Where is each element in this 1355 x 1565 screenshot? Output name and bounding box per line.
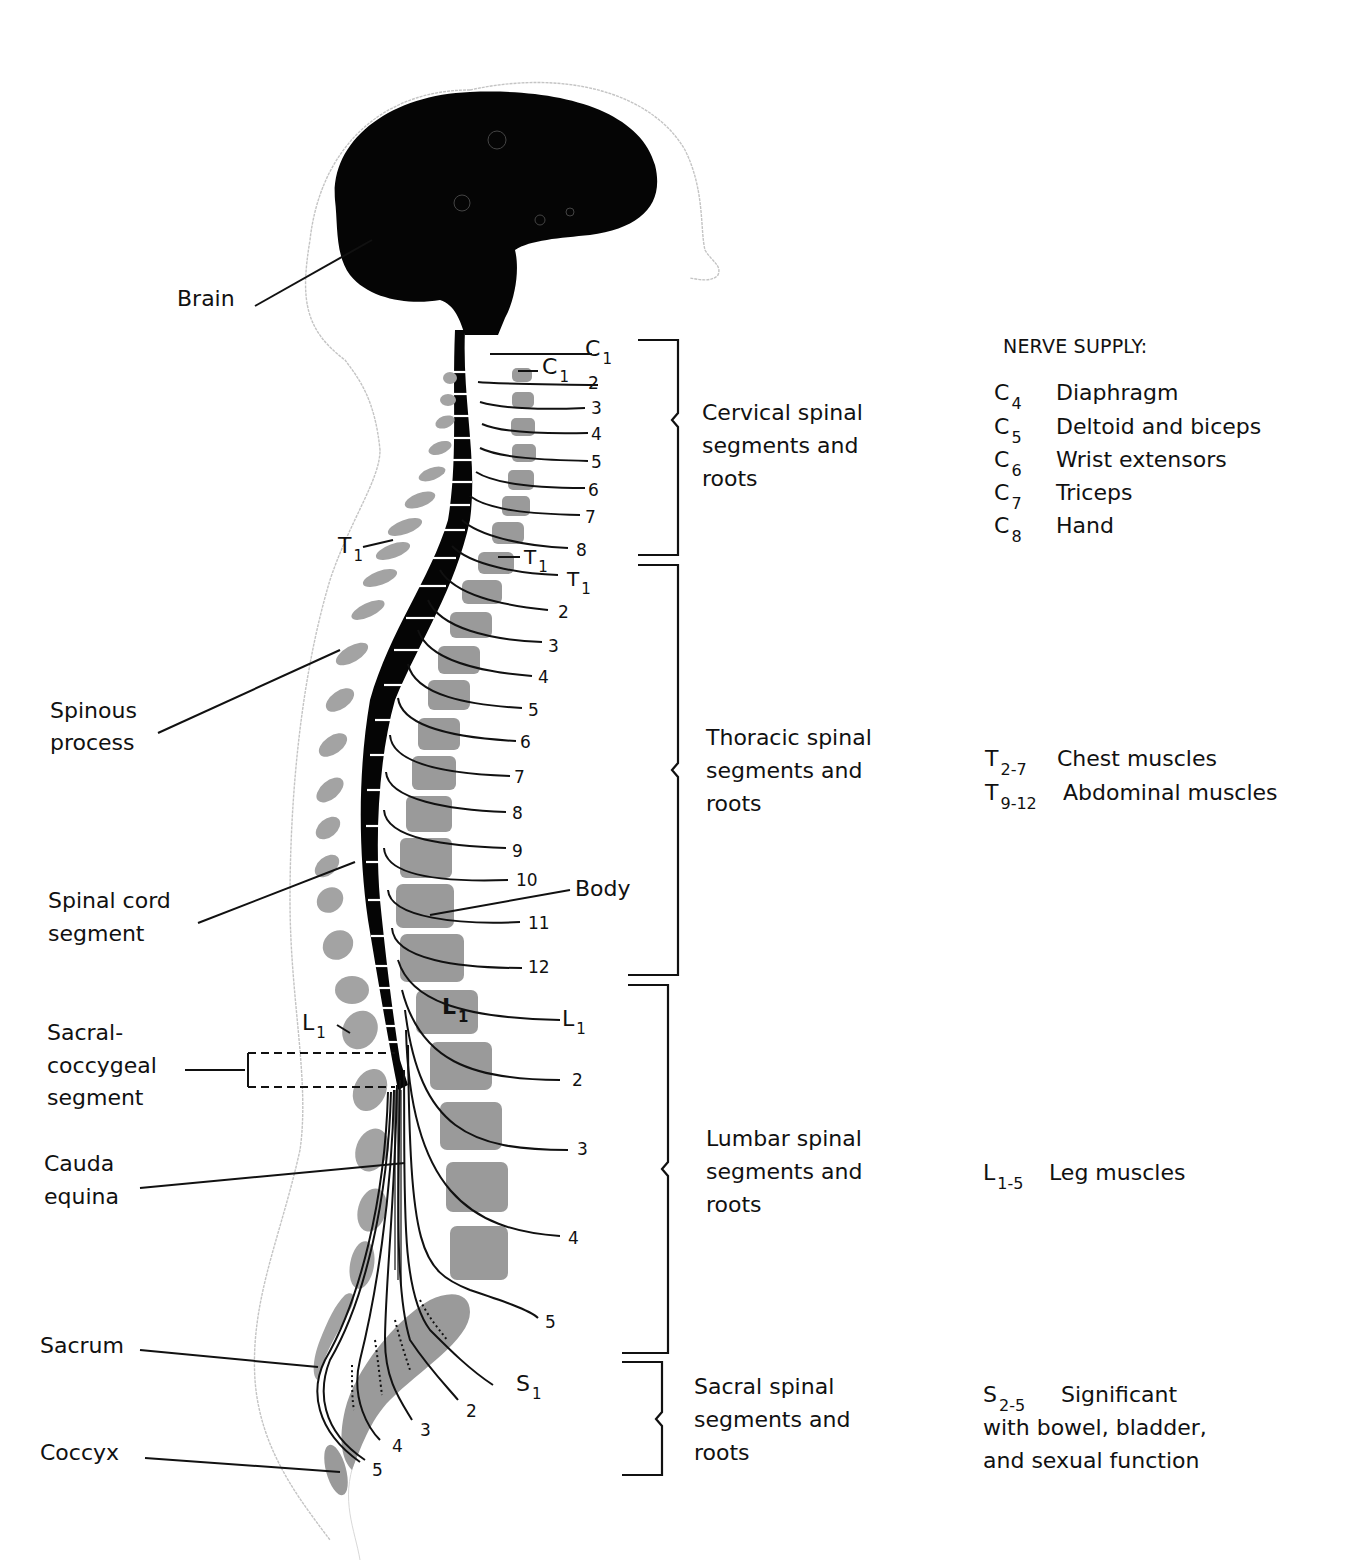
label-sacrum: Sacrum: [40, 1330, 124, 1362]
root-label-c6: 6: [588, 481, 599, 499]
label-l1-spinous: L1: [302, 1014, 326, 1034]
root-label-c1: C1: [585, 340, 612, 360]
label-spinous-process-line2: process: [50, 727, 135, 759]
root-label-l3: 3: [577, 1140, 588, 1158]
root-label-t5: 5: [528, 701, 539, 719]
label-c1-body: C1: [542, 358, 569, 378]
root-label-t11: 11: [528, 914, 550, 932]
region-lumbar: Lumbar spinal segments and roots: [706, 1122, 862, 1221]
label-coccyx: Coccyx: [40, 1437, 119, 1469]
label-t1-body: T1: [524, 548, 548, 568]
nerve-supply-t9-12: T9-12Abdominal muscles: [985, 778, 1278, 810]
region-brackets: [622, 340, 678, 1475]
nerve-supply-s2-5-line2: with bowel, bladder,: [983, 1413, 1207, 1443]
nerve-supply-c6: C6Wrist extensors: [994, 445, 1227, 477]
root-label-t12: 12: [528, 958, 550, 976]
root-label-t6: 6: [520, 733, 531, 751]
root-label-s2: 2: [466, 1402, 477, 1420]
label-sacral-coccygeal-line2: coccygeal: [47, 1050, 157, 1082]
root-label-t8: 8: [512, 804, 523, 822]
root-label-t10: 10: [516, 871, 538, 889]
nerve-supply-title: NERVE SUPPLY:: [1003, 335, 1147, 357]
nerve-supply-s2-5-line3: and sexual function: [983, 1446, 1199, 1476]
label-spinal-cord-segment-line2: segment: [48, 918, 145, 950]
root-label-s5: 5: [372, 1461, 383, 1479]
region-thoracic: Thoracic spinal segments and roots: [706, 721, 872, 820]
root-label-c7: 7: [585, 508, 596, 526]
nerve-supply-l1-5: L1-5Leg muscles: [983, 1158, 1185, 1190]
brain-shape: [335, 92, 657, 335]
root-label-s1: S1: [516, 1375, 542, 1395]
root-label-t7: 7: [514, 768, 525, 786]
root-label-t3: 3: [548, 637, 559, 655]
nerve-supply-c8: C8Hand: [994, 511, 1114, 543]
root-label-s3: 3: [420, 1421, 431, 1439]
root-label-c8: 8: [576, 541, 587, 559]
label-cauda-equina-line1: Cauda: [44, 1148, 114, 1180]
label-body: Body: [575, 873, 631, 905]
root-label-c4: 4: [591, 425, 602, 443]
root-label-l2: 2: [572, 1071, 583, 1089]
nerve-supply-c5: C5Deltoid and biceps: [994, 412, 1261, 444]
root-label-c5: 5: [591, 453, 602, 471]
root-label-t1: T1: [567, 570, 591, 590]
region-cervical: Cervical spinal segments and roots: [702, 396, 863, 495]
label-t1-spinous: T1: [338, 537, 363, 557]
nerve-supply-s2-5: S2-5Significant: [983, 1380, 1177, 1412]
root-label-l5: 5: [545, 1313, 556, 1331]
label-sacral-coccygeal-line3: segment: [47, 1082, 144, 1114]
root-label-l4: 4: [568, 1229, 579, 1247]
label-spinal-cord-segment-line1: Spinal cord: [48, 885, 171, 917]
root-label-l1: L1: [562, 1010, 586, 1030]
label-spinous-process-line1: Spinous: [50, 695, 137, 727]
label-brain: Brain: [177, 283, 235, 315]
root-label-t2: 2: [558, 603, 569, 621]
root-label-c2: 2: [588, 374, 599, 392]
nerve-supply-c7: C7Triceps: [994, 478, 1132, 510]
nerve-supply-t2-7: T2-7Chest muscles: [985, 744, 1217, 776]
label-cauda-equina-line2: equina: [44, 1181, 119, 1213]
root-label-s4: 4: [392, 1437, 403, 1455]
nerve-supply-c4: C4Diaphragm: [994, 378, 1178, 410]
label-l1-body: L1: [442, 998, 468, 1018]
label-sacral-coccygeal-line1: Sacral-: [47, 1017, 123, 1049]
root-label-c3: 3: [591, 399, 602, 417]
region-sacral: Sacral spinal segments and roots: [694, 1370, 850, 1469]
root-label-t4: 4: [538, 668, 549, 686]
root-label-t9: 9: [512, 842, 523, 860]
